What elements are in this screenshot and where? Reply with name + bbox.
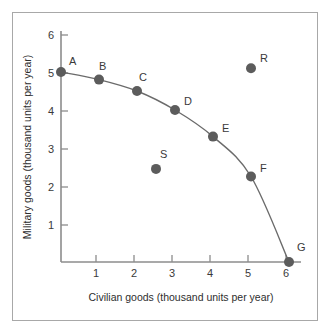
- x-tick-label-3: 3: [169, 267, 175, 279]
- y-tick-label-6: 6: [48, 29, 54, 41]
- x-tick-label-1: 1: [93, 267, 99, 279]
- data-point-e: E: [208, 122, 229, 142]
- data-point-s: S: [151, 148, 167, 174]
- data-point-c: C: [132, 71, 147, 96]
- point-marker-e: [208, 132, 218, 142]
- point-label-e: E: [222, 122, 229, 134]
- y-tick-label-3: 3: [48, 143, 54, 155]
- x-axis: 1 2 3 4 5 6: [61, 255, 301, 279]
- point-marker-r: [246, 63, 256, 73]
- point-marker-c: [132, 86, 142, 96]
- y-tick-label-1: 1: [48, 219, 54, 231]
- data-points-layer: ABCDEFGRS: [56, 52, 306, 267]
- point-marker-d: [170, 105, 180, 115]
- point-label-r: R: [260, 52, 268, 64]
- point-marker-g: [284, 257, 294, 267]
- data-point-g: G: [284, 241, 306, 267]
- x-tick-label-6: 6: [283, 267, 289, 279]
- y-tick-label-4: 4: [48, 105, 54, 117]
- y-axis: 6 5 4 3 2 1: [48, 29, 68, 262]
- point-marker-b: [94, 75, 104, 85]
- data-point-r: R: [246, 52, 268, 73]
- ppf-chart: 6 5 4 3 2 1 1 2 3 4 5 6 ABCDEFGRS Civili: [13, 13, 319, 322]
- data-point-d: D: [170, 95, 192, 115]
- chart-frame: 6 5 4 3 2 1 1 2 3 4 5 6 ABCDEFGRS Civili: [12, 12, 318, 321]
- point-label-g: G: [297, 241, 306, 253]
- point-label-a: A: [69, 55, 77, 67]
- x-axis-title: Civilian goods (thousand units per year): [88, 291, 273, 303]
- point-label-b: B: [99, 60, 106, 72]
- ppf-curve-group: [61, 72, 289, 262]
- ppf-curve: [61, 72, 289, 262]
- point-label-d: D: [184, 95, 192, 107]
- point-label-s: S: [160, 148, 167, 160]
- data-point-f: F: [246, 162, 267, 182]
- point-marker-s: [151, 164, 161, 174]
- y-axis-title: Military goods (thousand units per year): [21, 55, 33, 239]
- point-label-f: F: [260, 162, 267, 174]
- point-label-c: C: [139, 71, 147, 83]
- point-marker-f: [246, 172, 256, 182]
- point-marker-a: [56, 67, 66, 77]
- x-tick-label-5: 5: [245, 267, 251, 279]
- x-tick-label-4: 4: [207, 267, 213, 279]
- x-tick-label-2: 2: [131, 267, 137, 279]
- y-tick-label-5: 5: [48, 67, 54, 79]
- y-tick-label-2: 2: [48, 181, 54, 193]
